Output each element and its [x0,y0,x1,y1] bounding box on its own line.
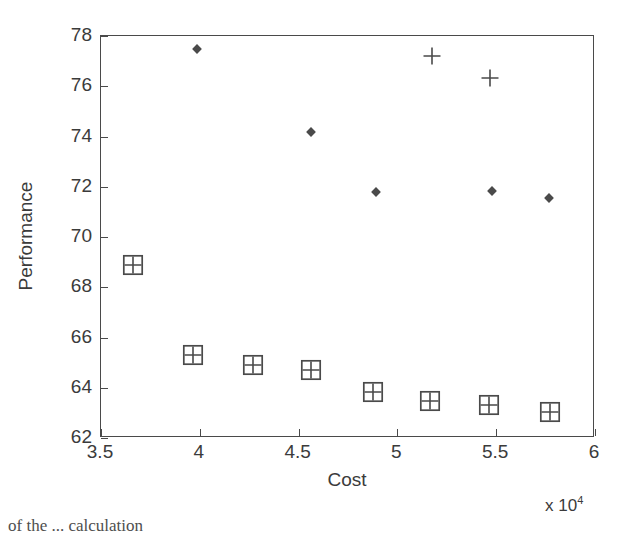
x-tick-label: 6 [589,441,600,463]
y-tick-label: 74 [71,125,92,147]
x-tick-mark [496,429,497,436]
y-tick-mark [101,86,108,87]
y-tick-mark [101,187,108,188]
y-tick-label: 78 [71,24,92,46]
x-axis-exponent-label: x 104 [545,494,583,516]
data-point-square [479,394,500,415]
y-tick-label: 64 [71,376,92,398]
data-point-plus [302,360,321,379]
data-point-plus [480,395,499,414]
data-point-diamond [191,44,202,55]
x-tick-label: 4 [194,441,205,463]
y-tick-label: 76 [71,74,92,96]
data-point-plus [183,345,202,364]
y-tick-mark [101,137,108,138]
data-point-plus [421,391,440,410]
x-tick-label: 5 [391,441,402,463]
x-tick-mark [101,429,102,436]
data-point-square [362,381,383,402]
x-tick-mark [397,429,398,436]
y-tick-mark [101,338,108,339]
figure-caption: of the ... calculation [8,516,408,533]
y-tick-mark [101,287,108,288]
data-point-square [122,254,143,275]
y-tick-label: 72 [71,175,92,197]
data-point-plus [481,69,500,88]
x-tick-label: 4.5 [284,441,310,463]
x-axis-label: Cost [327,469,366,491]
exponent-base: x 10 [545,496,577,515]
data-point-square [539,402,560,423]
y-tick-mark [101,438,108,439]
data-point-plus [123,255,142,274]
data-point-plus [422,47,441,66]
data-point-plus [540,403,559,422]
x-tick-mark [200,429,201,436]
plot-area [100,35,594,437]
x-tick-mark [595,429,596,436]
x-tick-label: 3.5 [87,441,113,463]
data-point-square [243,354,264,375]
data-point-plus [244,355,263,374]
x-tick-label: 5.5 [482,441,508,463]
y-tick-mark [101,36,108,37]
x-tick-mark [299,429,300,436]
y-axis-label: Performance [15,182,37,291]
scatter-plot-figure: Performance 626466687072747678 3.544.555… [0,0,629,533]
y-tick-label: 68 [71,275,92,297]
data-point-diamond [305,126,316,137]
data-point-square [182,344,203,365]
data-point-square [420,390,441,411]
y-tick-label: 70 [71,225,92,247]
y-tick-mark [101,237,108,238]
data-point-diamond [543,193,554,204]
y-tick-mark [101,388,108,389]
data-point-diamond [371,186,382,197]
data-point-diamond [487,186,498,197]
data-point-square [301,359,322,380]
data-point-plus [363,382,382,401]
exponent-power: 4 [577,494,583,506]
y-tick-label: 66 [71,326,92,348]
